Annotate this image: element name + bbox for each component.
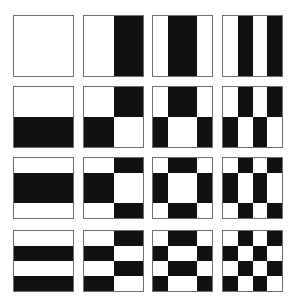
pattern-cell — [168, 87, 183, 102]
pattern-cell — [238, 246, 253, 261]
pattern-cell — [29, 87, 44, 102]
pattern-cell — [99, 261, 114, 276]
pattern-cell — [153, 31, 168, 46]
pattern-cell — [153, 132, 168, 147]
pattern-cell — [14, 231, 29, 246]
pattern-cell — [114, 102, 129, 117]
pattern-cell — [253, 87, 268, 102]
pattern-cell — [238, 87, 253, 102]
pattern-cell — [153, 188, 168, 203]
pattern-cell — [168, 231, 183, 246]
pattern-cell — [197, 102, 212, 117]
pattern-cell — [58, 31, 73, 46]
pattern-AB — [83, 15, 144, 77]
pattern-cell — [44, 173, 59, 188]
pattern-cell — [183, 46, 198, 61]
pattern-cell — [197, 16, 212, 31]
pattern-cell — [238, 203, 253, 218]
pattern-cell — [58, 203, 73, 218]
pattern-DB — [83, 230, 144, 292]
pattern-cell — [267, 102, 282, 117]
pattern-cell — [168, 158, 183, 173]
pattern-cell — [128, 276, 143, 291]
pattern-cell — [253, 132, 268, 147]
pattern-cell — [14, 46, 29, 61]
pattern-cell — [223, 261, 238, 276]
pattern-cell — [253, 246, 268, 261]
pattern-cell — [183, 173, 198, 188]
pattern-cell — [267, 61, 282, 76]
pattern-cell — [44, 261, 59, 276]
walsh-pattern-grid — [0, 0, 298, 306]
pattern-cell — [84, 231, 99, 246]
pattern-cell — [14, 158, 29, 173]
pattern-cell — [168, 173, 183, 188]
pattern-cell — [29, 231, 44, 246]
pattern-cell — [168, 102, 183, 117]
pattern-cell — [183, 261, 198, 276]
pattern-cell — [168, 261, 183, 276]
pattern-cell — [58, 61, 73, 76]
pattern-cell — [197, 117, 212, 132]
pattern-cell — [253, 158, 268, 173]
pattern-cell — [153, 87, 168, 102]
pattern-cell — [253, 276, 268, 291]
pattern-cell — [197, 261, 212, 276]
pattern-cell — [197, 231, 212, 246]
pattern-cell — [153, 61, 168, 76]
pattern-cell — [223, 61, 238, 76]
pattern-cell — [223, 117, 238, 132]
pattern-cell — [267, 132, 282, 147]
pattern-AA — [13, 15, 74, 77]
pattern-cell — [29, 246, 44, 261]
pattern-cell — [29, 132, 44, 147]
pattern-cell — [29, 46, 44, 61]
pattern-cell — [14, 87, 29, 102]
pattern-cell — [84, 158, 99, 173]
pattern-cell — [128, 246, 143, 261]
pattern-cell — [29, 117, 44, 132]
pattern-cell — [183, 117, 198, 132]
pattern-cell — [58, 117, 73, 132]
pattern-cell — [99, 158, 114, 173]
pattern-cell — [114, 173, 129, 188]
pattern-cell — [168, 117, 183, 132]
pattern-cell — [168, 31, 183, 46]
pattern-cell — [114, 87, 129, 102]
pattern-cell — [197, 132, 212, 147]
pattern-cell — [223, 276, 238, 291]
pattern-cell — [29, 188, 44, 203]
pattern-cell — [197, 188, 212, 203]
pattern-cell — [14, 102, 29, 117]
pattern-cell — [253, 61, 268, 76]
pattern-cell — [267, 203, 282, 218]
pattern-cell — [14, 246, 29, 261]
pattern-cell — [84, 87, 99, 102]
pattern-cell — [168, 188, 183, 203]
pattern-cell — [253, 46, 268, 61]
pattern-cell — [267, 231, 282, 246]
pattern-cell — [99, 31, 114, 46]
pattern-cell — [197, 158, 212, 173]
pattern-cell — [128, 231, 143, 246]
pattern-cell — [267, 46, 282, 61]
pattern-cell — [183, 31, 198, 46]
pattern-cell — [267, 16, 282, 31]
pattern-cell — [183, 231, 198, 246]
pattern-cell — [168, 16, 183, 31]
pattern-cell — [238, 31, 253, 46]
pattern-cell — [267, 276, 282, 291]
pattern-cell — [114, 246, 129, 261]
pattern-cell — [253, 117, 268, 132]
pattern-cell — [238, 231, 253, 246]
pattern-cell — [114, 158, 129, 173]
pattern-cell — [183, 16, 198, 31]
pattern-cell — [44, 276, 59, 291]
pattern-cell — [29, 173, 44, 188]
pattern-cell — [114, 117, 129, 132]
pattern-cell — [183, 102, 198, 117]
pattern-cell — [153, 102, 168, 117]
pattern-cell — [223, 173, 238, 188]
pattern-cell — [14, 188, 29, 203]
pattern-cell — [197, 276, 212, 291]
